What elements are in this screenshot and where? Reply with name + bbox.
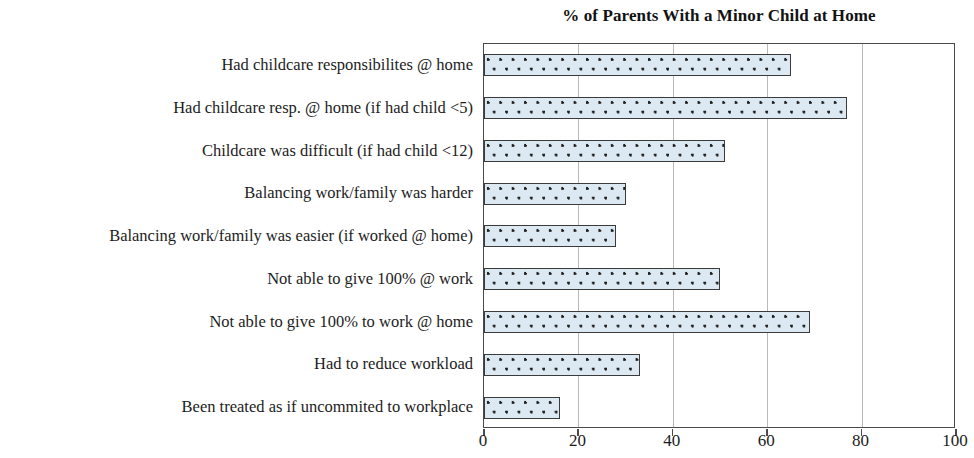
- bar-container: [484, 354, 640, 376]
- chart-category-row: Not able to give 100% @ work: [484, 258, 954, 301]
- chart-category-row: Had to reduce workload: [484, 343, 954, 386]
- chart-category-row: Had childcare resp. @ home (if had child…: [484, 87, 954, 130]
- category-label: Had childcare resp. @ home (if had child…: [173, 87, 473, 130]
- bar: [484, 225, 616, 247]
- x-tick-label: 80: [852, 431, 869, 451]
- bar-container: [484, 397, 560, 419]
- chart-category-row: Balancing work/family was easier (if wor…: [484, 215, 954, 258]
- bar-container: [484, 225, 616, 247]
- bar: [484, 183, 626, 205]
- bar: [484, 311, 810, 333]
- bar: [484, 54, 791, 76]
- chart-category-row: Childcare was difficult (if had child <1…: [484, 130, 954, 173]
- bar: [484, 397, 560, 419]
- plot-area: Had childcare responsibilites @ homeHad …: [483, 43, 955, 428]
- chart-title: % of Parents With a Minor Child at Home: [483, 6, 955, 26]
- category-label: Been treated as if uncommited to workpla…: [182, 386, 473, 429]
- chart-category-row: Balancing work/family was harder: [484, 172, 954, 215]
- bar: [484, 268, 720, 290]
- bar-chart-figure: % of Parents With a Minor Child at Home …: [0, 0, 974, 458]
- bar: [484, 97, 847, 119]
- x-tick-label: 40: [663, 431, 680, 451]
- bar-container: [484, 54, 791, 76]
- category-label: Balancing work/family was easier (if wor…: [109, 215, 473, 258]
- chart-category-row: Not able to give 100% to work @ home: [484, 301, 954, 344]
- x-axis-tick-labels: 020406080100: [483, 431, 955, 457]
- bar-container: [484, 311, 810, 333]
- bar-container: [484, 97, 847, 119]
- category-label: Not able to give 100% to work @ home: [209, 301, 473, 344]
- x-tick-label: 60: [758, 431, 775, 451]
- category-label: Not able to give 100% @ work: [267, 258, 473, 301]
- bar-container: [484, 140, 725, 162]
- category-label: Balancing work/family was harder: [244, 172, 473, 215]
- category-label: Childcare was difficult (if had child <1…: [202, 130, 473, 173]
- x-tick-label: 100: [942, 431, 968, 451]
- chart-category-row: Been treated as if uncommited to workpla…: [484, 386, 954, 429]
- category-label: Had to reduce workload: [314, 343, 473, 386]
- bar: [484, 140, 725, 162]
- bar-container: [484, 183, 626, 205]
- x-tick-label: 20: [569, 431, 586, 451]
- chart-category-row: Had childcare responsibilites @ home: [484, 44, 954, 87]
- bar-container: [484, 268, 720, 290]
- category-label: Had childcare responsibilites @ home: [221, 44, 473, 87]
- x-tick-label: 0: [479, 431, 488, 451]
- bar: [484, 354, 640, 376]
